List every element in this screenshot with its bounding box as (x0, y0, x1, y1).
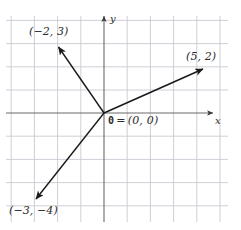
vector-b-arrow (104, 69, 203, 113)
vector-c-label: (−3, −4) (9, 204, 58, 217)
vector-a-label: (−2, 3) (29, 25, 69, 38)
vector-c-arrow (36, 113, 104, 199)
x-axis-label: x (215, 115, 221, 126)
origin-coordinates: (0, 0) (128, 114, 159, 127)
vector-diagram-figure: (−2, 3) (5, 2) (−3, −4) 0=(0, 0) y x (0, 0, 241, 230)
origin-label: 0=(0, 0) (108, 114, 158, 127)
y-axis-label: y (110, 13, 116, 24)
vector-b-label: (5, 2) (186, 50, 216, 63)
origin-equals-sign: = (114, 114, 127, 127)
